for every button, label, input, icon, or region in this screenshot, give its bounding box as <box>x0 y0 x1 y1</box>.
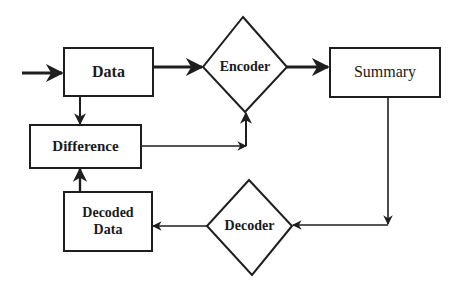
data-node <box>63 47 154 97</box>
summary-node <box>329 47 441 98</box>
encoder-diamond <box>203 17 287 112</box>
decoder-diamond <box>207 180 292 275</box>
decoded-data-node <box>63 191 153 252</box>
difference-node <box>29 124 142 169</box>
